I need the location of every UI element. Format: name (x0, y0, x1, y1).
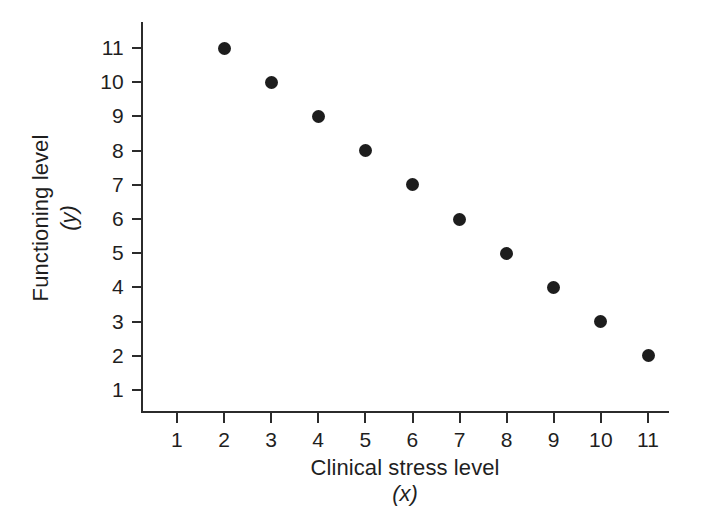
y-axis-tick (132, 184, 142, 186)
data-point (312, 110, 325, 123)
x-axis-line (141, 411, 669, 413)
y-axis-title: Functioning level (y) (27, 18, 83, 418)
y-axis-tick (132, 150, 142, 152)
data-point (406, 178, 419, 191)
data-point (594, 315, 607, 328)
x-axis-tick (553, 413, 555, 423)
x-axis-tick-label-text: 11 (618, 428, 678, 452)
x-axis-tick (364, 413, 366, 423)
x-axis-tick (506, 413, 508, 423)
data-point (547, 281, 560, 294)
x-axis-tick-label: 11 (618, 428, 678, 452)
x-axis-tick (459, 413, 461, 423)
y-axis-tick (132, 115, 142, 117)
y-axis-tick (132, 355, 142, 357)
data-point (265, 76, 278, 89)
scatter-plot-figure: 1234567891011 1234567891011 Clinical str… (0, 0, 712, 531)
x-axis-tick (647, 413, 649, 423)
y-axis-title-main: Functioning level (27, 18, 55, 418)
x-axis-tick (317, 413, 319, 423)
x-axis-title-symbol: (x) (141, 481, 669, 507)
x-axis-title-main: Clinical stress level (141, 455, 669, 481)
y-axis-tick (132, 286, 142, 288)
y-axis-tick (132, 47, 142, 49)
data-point (453, 213, 466, 226)
y-axis-tick (132, 218, 142, 220)
y-axis-tick (132, 81, 142, 83)
x-axis-tick (223, 413, 225, 423)
x-axis-title: Clinical stress level (x) (141, 455, 669, 507)
y-axis-tick (132, 252, 142, 254)
y-axis-tick (132, 389, 142, 391)
y-axis-tick (132, 321, 142, 323)
data-point (642, 349, 655, 362)
x-axis-tick (412, 413, 414, 423)
x-axis-tick (270, 413, 272, 423)
x-axis-tick (600, 413, 602, 423)
data-point (359, 144, 372, 157)
y-axis-title-symbol: (y) (55, 18, 83, 418)
x-axis-tick (176, 413, 178, 423)
data-point (218, 42, 231, 55)
data-point (500, 247, 513, 260)
